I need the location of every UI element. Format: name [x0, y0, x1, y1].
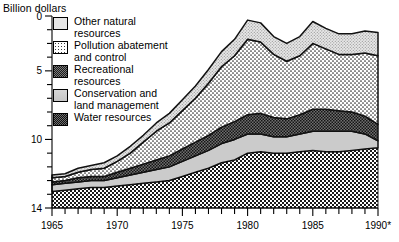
legend-item-label: Water resources — [74, 112, 151, 124]
legend-item: Conservation and land management — [53, 88, 243, 111]
y-tick-label: 5 — [36, 65, 42, 76]
chart-legend: Other natural resourcesPollution abateme… — [53, 16, 243, 127]
x-tick-label: 1975 — [171, 220, 194, 231]
pattern-checker-swatch-icon — [53, 113, 68, 126]
x-tick-label: 1990* — [365, 220, 391, 231]
pattern-dark-checker-swatch-icon — [53, 65, 68, 78]
legend-item-label: Pollution abatement and control — [74, 40, 168, 63]
legend-item: Recreational resources — [53, 64, 243, 87]
y-tick-label: 10 — [31, 134, 43, 145]
legend-item-label: Conservation and land management — [74, 88, 159, 111]
x-tick-label: 1970 — [106, 220, 129, 231]
legend-item: Pollution abatement and control — [53, 40, 243, 63]
x-tick-label: 1980 — [236, 220, 259, 231]
pattern-sparse-dot-swatch-icon — [53, 41, 68, 54]
pattern-solid-gray-swatch-icon — [53, 89, 68, 102]
legend-item-label: Other natural resources — [74, 16, 136, 39]
x-tick-label: 1965 — [41, 220, 64, 231]
y-tick-label: 0 — [36, 11, 42, 22]
pattern-fine-dot-swatch-icon — [53, 17, 68, 30]
chart-figure: Billion dollars — [0, 0, 399, 242]
legend-item-label: Recreational resources — [74, 64, 134, 87]
x-tick-label: 1985 — [302, 220, 325, 231]
legend-item: Other natural resources — [53, 16, 243, 39]
legend-item: Water resources — [53, 112, 243, 126]
y-tick-label: 14 — [31, 203, 43, 214]
